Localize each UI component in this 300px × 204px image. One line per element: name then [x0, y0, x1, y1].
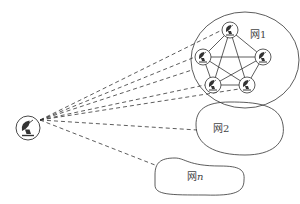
satellite-dish-icon	[239, 77, 255, 93]
satellite-dish-icon	[255, 49, 271, 65]
link-to-net1-boundary	[40, 70, 192, 120]
network-n-label: 网n	[187, 171, 203, 182]
link-to-net2	[40, 120, 197, 130]
network-diagram: 网1 网2 网n	[0, 0, 300, 204]
dashed-links	[40, 30, 239, 165]
link-to-net1-top	[40, 30, 222, 120]
network-2-label: 网2	[213, 123, 229, 134]
satellite-dish-icon	[195, 49, 211, 65]
link-to-net1-left	[40, 57, 195, 120]
satellite-dish-icon	[222, 22, 238, 38]
satellite-dish-icon	[205, 77, 221, 93]
network-2-boundary	[196, 102, 283, 155]
link-to-net1-bottom-right	[40, 89, 239, 120]
link-to-net1-bottom-left	[40, 85, 205, 120]
source-satellite-dish-icon	[16, 116, 40, 140]
network-1-label: 网1	[250, 29, 266, 40]
link-to-netn	[40, 120, 155, 165]
